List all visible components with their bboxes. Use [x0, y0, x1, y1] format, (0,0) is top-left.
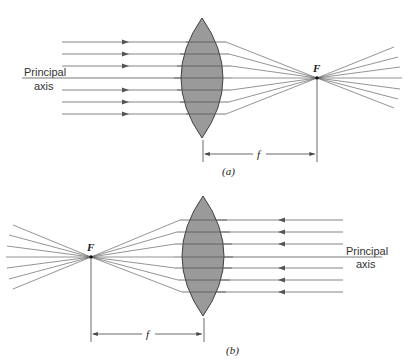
focal-point-a [315, 76, 319, 80]
caption-a: (a) [222, 165, 235, 178]
lens-figure-svg: F Principal axis f (a) [0, 0, 409, 364]
caption-b: (b) [226, 344, 239, 357]
converging-rays-a [226, 42, 402, 114]
lens-diagram: F Principal axis f (a) [0, 0, 409, 364]
principal-axis-label-b-line2: axis [356, 258, 376, 270]
focal-length-label-a: f [257, 148, 262, 160]
focal-point-label-b: F [86, 241, 95, 253]
converging-rays-b [6, 220, 182, 292]
principal-axis-label-b-line1: Principal [346, 245, 388, 257]
focal-point-label-a: F [312, 62, 321, 74]
focal-length-label-b: f [146, 328, 151, 340]
panel-a: F Principal axis f (a) [22, 18, 402, 178]
converging-lens-b [182, 196, 224, 316]
focal-point-b [89, 255, 93, 259]
panel-b: F Principal axis f (b) [6, 196, 388, 357]
ray-arrow-icons-b [278, 218, 285, 295]
principal-axis-label-a-line2: axis [34, 80, 54, 92]
principal-axis-label-a-line1: Principal [24, 66, 66, 78]
